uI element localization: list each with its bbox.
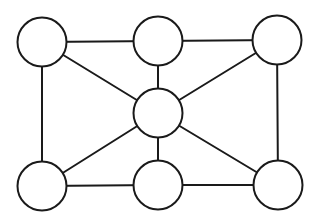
node-bottom-middle <box>134 161 183 210</box>
node-center <box>134 89 183 138</box>
node-top-right <box>253 16 302 65</box>
node-top-left <box>18 18 67 67</box>
nodes-layer <box>18 16 303 211</box>
node-bottom-right <box>254 161 303 210</box>
node-bottom-left <box>18 162 67 211</box>
node-top-middle <box>134 17 183 66</box>
graph-diagram <box>0 0 321 223</box>
